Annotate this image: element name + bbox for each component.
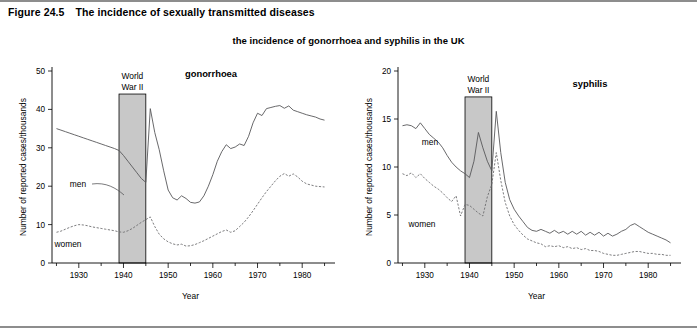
war-band-label-line1: World — [468, 74, 490, 84]
y-tick-label: 15 — [382, 115, 392, 124]
series-label-women: women — [408, 219, 436, 229]
y-tick-label: 10 — [382, 163, 392, 172]
war-band — [465, 97, 492, 263]
y-tick-label: 30 — [36, 144, 46, 153]
figure-number: Figure 24.5 — [8, 6, 65, 18]
figure-caption-text: The incidence of sexually transmitted di… — [76, 6, 315, 18]
y-tick-label: 20 — [36, 182, 46, 191]
figure-root: Figure 24.5The incidence of sexually tra… — [0, 0, 697, 328]
y-tick-label: 5 — [386, 211, 391, 220]
war-band-label-line2: War II — [121, 82, 143, 92]
series-label-men: men — [70, 179, 87, 189]
gonorrhoea-chart-svg: WorldWar II01020304050193019401950196019… — [6, 55, 351, 305]
y-axis-title: Number of reported cases/thousands — [364, 98, 374, 236]
series-line-men — [56, 106, 324, 204]
war-band-label-line1: World — [122, 71, 144, 81]
series-line-women — [56, 174, 324, 247]
x-tick-label: 1950 — [505, 271, 524, 280]
x-tick-label: 1930 — [70, 271, 89, 280]
axis-lines — [52, 67, 335, 263]
y-tick-label: 10 — [36, 221, 46, 230]
axis-lines — [398, 67, 681, 263]
x-tick-label: 1940 — [114, 271, 133, 280]
series-line-women — [402, 153, 670, 256]
x-tick-label: 1940 — [460, 271, 479, 280]
chart-panel-syphilis: WorldWar II05101520193019401950196019701… — [352, 55, 697, 305]
y-tick-label: 0 — [40, 259, 45, 268]
panel-title: syphilis — [573, 78, 608, 89]
x-tick-label: 1970 — [248, 271, 267, 280]
x-tick-label: 1980 — [293, 271, 312, 280]
y-axis-title: Number of reported cases/thousands — [18, 98, 28, 236]
x-axis-title: Year — [528, 291, 545, 301]
figure-caption: Figure 24.5The incidence of sexually tra… — [8, 6, 315, 18]
y-tick-label: 0 — [386, 259, 391, 268]
x-tick-label: 1970 — [594, 271, 613, 280]
x-tick-label: 1960 — [550, 271, 569, 280]
top-rule — [0, 0, 697, 2]
y-tick-label: 40 — [36, 105, 46, 114]
series-label-women: women — [54, 239, 82, 249]
chart-panel-gonorrhoea: WorldWar II01020304050193019401950196019… — [6, 55, 351, 305]
x-axis-title: Year — [182, 291, 199, 301]
war-band-label-line2: War II — [467, 85, 489, 95]
x-tick-label: 1960 — [204, 271, 223, 280]
y-tick-label: 20 — [382, 67, 392, 76]
x-tick-label: 1980 — [639, 271, 658, 280]
panel-title: gonorrhoea — [185, 68, 238, 79]
series-line-men — [402, 111, 670, 243]
y-tick-label: 50 — [36, 67, 46, 76]
x-tick-label: 1950 — [159, 271, 178, 280]
figure-subtitle: the incidence of gonorrhoea and syphilis… — [0, 35, 697, 46]
syphilis-chart-svg: WorldWar II05101520193019401950196019701… — [352, 55, 697, 305]
series-label-men: men — [422, 137, 439, 147]
x-tick-label: 1930 — [416, 271, 435, 280]
